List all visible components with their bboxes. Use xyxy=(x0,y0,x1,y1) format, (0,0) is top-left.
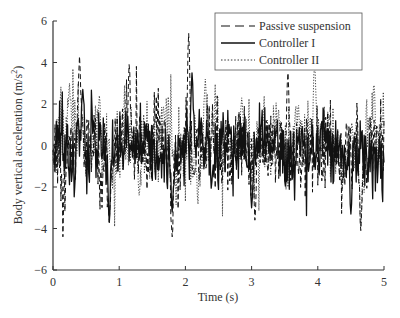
x-tick-label: 3 xyxy=(249,275,255,289)
x-tick-label: 4 xyxy=(315,275,321,289)
y-tick-label: 2 xyxy=(41,97,47,111)
legend-label: Controller II xyxy=(259,53,319,67)
legend: Passive suspension Controller I Controll… xyxy=(215,13,362,70)
acceleration-time-chart: −6−4−20246 012345 Time (s) Body vertical… xyxy=(0,0,400,318)
x-tick-label: 1 xyxy=(116,275,122,289)
x-axis-label: Time (s) xyxy=(198,290,239,304)
x-tick-label: 0 xyxy=(50,275,56,289)
y-tick-label: 0 xyxy=(41,139,47,153)
y-tick-label: −2 xyxy=(34,180,47,194)
y-axis-label-close: ) xyxy=(11,66,25,70)
legend-label: Controller I xyxy=(259,36,315,50)
y-tick-label: −4 xyxy=(34,222,47,236)
x-tick-label: 5 xyxy=(381,275,387,289)
y-tick-label: 4 xyxy=(41,56,47,70)
x-tick-label: 2 xyxy=(182,275,188,289)
y-tick-label: 6 xyxy=(41,14,47,28)
y-tick-label: −6 xyxy=(34,263,47,277)
legend-label: Passive suspension xyxy=(259,19,351,33)
y-axis-label: Body vertical acceleration (m/s2) xyxy=(10,66,25,224)
y-axis-label-main: Body vertical acceleration (m/s xyxy=(11,74,25,225)
